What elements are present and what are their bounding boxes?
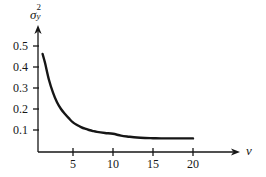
x-tick-label-5: 5	[63, 158, 83, 170]
x-tick-label-20: 20	[183, 158, 203, 170]
plot-canvas	[0, 0, 266, 177]
y-tick-label-0.1: 0.1	[4, 124, 28, 136]
x-tick-label-15: 15	[143, 158, 163, 170]
y-tick-label-0.3: 0.3	[4, 82, 28, 94]
x-axis-title: v	[246, 144, 252, 157]
y-tick-label-0.5: 0.5	[4, 40, 28, 52]
sigma-scripts: 2y	[36, 6, 43, 19]
sigma-subscript: y	[36, 12, 40, 21]
x-tick-label-10: 10	[103, 158, 123, 170]
data-series-curve	[43, 54, 193, 138]
chart-figure: σ2y v 0.5 0.4 0.3 0.2 0.1 5 10 15 20	[0, 0, 266, 177]
y-axis-title: σ2y	[30, 6, 43, 21]
y-tick-label-0.4: 0.4	[4, 61, 28, 73]
y-tick-label-0.2: 0.2	[4, 103, 28, 115]
